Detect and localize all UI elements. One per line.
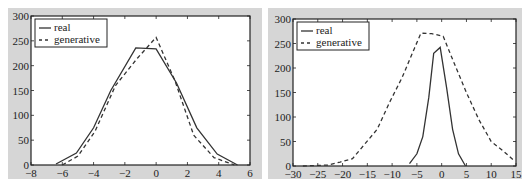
- legend-generative-label: generative: [316, 36, 362, 48]
- x-tick-label: −4: [88, 167, 100, 179]
- x-tick-label: 2: [185, 167, 191, 179]
- right-chart-panel: −30−25−20−15−10−505101505010015020025030…: [264, 0, 529, 190]
- y-tick-label: 100: [275, 111, 292, 123]
- y-tick-label: 150: [275, 87, 292, 99]
- legend: realgenerative: [35, 19, 107, 47]
- x-tick-label: −15: [359, 168, 377, 180]
- x-tick-label: 5: [464, 168, 470, 180]
- x-tick-label: −2: [119, 167, 131, 179]
- right-chart: −30−25−20−15−10−505101505010015020025030…: [264, 0, 529, 190]
- x-tick-label: −25: [309, 168, 327, 180]
- legend-real-label: real: [316, 24, 332, 36]
- y-tick-label: 0: [286, 160, 292, 172]
- x-tick-label: −20: [334, 168, 352, 180]
- x-tick-label: 6: [247, 167, 253, 179]
- legend-generative-label: generative: [54, 33, 100, 45]
- y-tick-label: 250: [13, 35, 30, 47]
- y-tick-label: 100: [13, 109, 30, 121]
- left-chart: −8−6−4−20246050100150200250300realgenera…: [0, 0, 264, 190]
- x-tick-label: −6: [56, 167, 68, 179]
- legend-real-label: real: [54, 21, 70, 33]
- y-tick-label: 250: [275, 38, 292, 50]
- y-tick-label: 150: [13, 85, 30, 97]
- x-tick-label: −10: [384, 168, 402, 180]
- y-tick-label: 300: [13, 10, 30, 22]
- legend: realgenerative: [297, 22, 369, 50]
- left-chart-panel: −8−6−4−20246050100150200250300realgenera…: [0, 0, 264, 190]
- x-tick-label: 15: [511, 168, 523, 180]
- x-tick-label: 0: [439, 168, 445, 180]
- x-tick-label: 0: [153, 167, 159, 179]
- y-tick-label: 50: [280, 136, 292, 148]
- x-tick-label: 10: [486, 168, 498, 180]
- y-tick-label: 200: [13, 60, 30, 72]
- y-tick-label: 200: [275, 62, 292, 74]
- y-tick-label: 50: [18, 134, 30, 146]
- y-tick-label: 0: [24, 159, 30, 171]
- x-tick-label: 4: [216, 167, 222, 179]
- y-tick-label: 300: [275, 13, 292, 25]
- x-tick-label: −5: [411, 168, 423, 180]
